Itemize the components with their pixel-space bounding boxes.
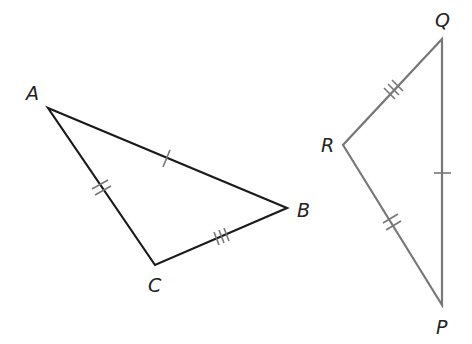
label-p: P [436,316,448,338]
triangle-abc-tick-marks [92,150,229,245]
triangle-abc [48,108,287,265]
label-r: R [321,134,334,156]
congruent-triangles-diagram: A B C Q R P [0,0,472,344]
label-c: C [148,274,162,296]
triangle-pqr-tick-marks [383,80,451,230]
label-b: B [297,199,310,221]
triangle-pqr-outline [343,39,442,305]
triangle-abc-outline [48,108,287,265]
tick-ac-1 [92,180,108,189]
label-a: A [24,82,39,104]
label-q: Q [435,9,450,31]
triangle-pqr [343,39,442,305]
